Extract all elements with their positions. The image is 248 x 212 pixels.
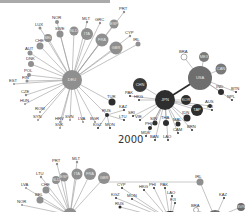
node-label-aus: AUS	[205, 99, 214, 104]
node-ltu	[40, 176, 42, 178]
node-label-phi: PHI	[145, 121, 152, 126]
node-label-svk: SVK	[55, 122, 64, 127]
node-lva	[25, 187, 27, 189]
node-label-deu: DEU	[68, 77, 77, 82]
edge	[215, 198, 224, 212]
node-label-mon: MON	[127, 193, 137, 198]
node-npl	[231, 99, 233, 101]
node-label-ban: BAN	[150, 134, 159, 139]
node-label-irl: IRL	[133, 37, 140, 42]
node-label-can: CAN	[217, 66, 226, 71]
node-ban	[154, 139, 156, 141]
node-label-nor: NOR	[52, 15, 61, 20]
node-irl	[136, 42, 141, 47]
node-label-mal: MAL	[173, 117, 182, 122]
node-label-dnk: DNK	[26, 56, 35, 61]
node-kgz	[115, 197, 117, 199]
edge	[122, 188, 170, 212]
node-label-tap: TAP	[193, 107, 201, 112]
labels-layer: NORLUXSWENLDMLTITAGRCFRAESPGBRPRTCYPIRLB…	[9, 6, 245, 210]
node-label-lva: LVA	[78, 116, 85, 121]
edge	[132, 199, 170, 212]
node-label-swe: SWE	[55, 26, 65, 31]
node-label-prt: PRT	[119, 6, 128, 11]
node-bel	[37, 197, 44, 204]
node-label-bel: BEL	[44, 35, 52, 40]
node-label-svn: SVN	[65, 114, 74, 119]
node-nor	[55, 20, 59, 24]
node-label-mlt: MLT	[82, 16, 91, 21]
node-label-pak: PAK	[125, 90, 133, 95]
node-label-kaz: KAZ	[219, 192, 228, 197]
bottom-hub-node	[207, 210, 223, 212]
node-label-rus: RUS	[102, 108, 111, 113]
node-label-ltu: LTU	[36, 171, 44, 176]
node-cze	[25, 94, 27, 96]
node-fji	[174, 202, 176, 204]
node-label-cam: CAM	[173, 127, 183, 132]
node-kaz	[223, 197, 225, 199]
node-sri	[132, 115, 134, 117]
node-label-rus: RUS	[115, 201, 124, 206]
node-mlt	[76, 161, 78, 163]
node-label-svn: SVN	[237, 204, 245, 209]
node-cam	[177, 132, 179, 134]
node-label-che: CHE	[41, 182, 50, 187]
node-prt	[123, 11, 125, 13]
node-label-cyp: CYP	[117, 182, 126, 187]
node-label-esp: ESP	[110, 21, 118, 26]
node-che	[37, 43, 44, 50]
node-label-chn: CHN	[136, 82, 145, 87]
node-label-hkg: HKG	[139, 184, 148, 189]
node-mon	[109, 127, 111, 129]
node-label-kgz: KGZ	[111, 192, 120, 197]
node-label-ita: ITA	[74, 171, 80, 176]
node-lva	[82, 121, 84, 123]
node-label-tur: TUR	[107, 94, 116, 99]
node-btn	[235, 91, 237, 93]
edge	[70, 178, 104, 212]
node-dnk	[28, 61, 34, 67]
node-label-fji: FJI	[170, 197, 176, 202]
node-label-fra: FRA	[98, 37, 106, 42]
node-label-ltu: LTU	[119, 114, 127, 119]
node-syn	[37, 119, 39, 121]
node-label-gbr: GBR	[100, 175, 109, 180]
node-label-nld: NLD	[70, 28, 78, 33]
node-fji	[211, 109, 213, 111]
node-rom	[39, 111, 41, 113]
node-label-cyp: CYP	[125, 30, 134, 35]
node-hkg	[138, 99, 140, 101]
node-label-npl: NPL	[227, 94, 236, 99]
year-label: 2000	[118, 134, 143, 145]
node-label-lao: LAO	[163, 134, 172, 139]
node-label-che: CHE	[35, 38, 44, 43]
node-vie	[139, 119, 141, 121]
node-label-usa: USA	[196, 75, 205, 80]
node-swe	[57, 31, 64, 38]
node-label-fra: FRA	[86, 171, 94, 176]
node-label-vie: VIE	[135, 114, 142, 119]
node-label-grc: GRC	[95, 17, 104, 22]
node-lao	[167, 139, 169, 141]
node-label-bel: BEL	[35, 192, 44, 197]
node-est	[13, 83, 15, 85]
node-label-ind: IND	[216, 84, 223, 89]
node-sin	[153, 121, 158, 126]
node-idn	[184, 115, 191, 122]
node-label-hrv: HRV	[55, 116, 64, 121]
node-label-fji: FJI	[207, 104, 213, 109]
node-rus	[105, 113, 109, 117]
node-prt	[56, 163, 58, 165]
node-label-kgz: KGZ	[93, 122, 102, 127]
node-brn	[191, 129, 193, 131]
node-kaz	[123, 109, 125, 111]
edge	[200, 182, 215, 212]
node-label-mon: MON	[105, 122, 115, 127]
bottom-hub-node	[161, 211, 179, 212]
node-mlt	[86, 21, 88, 23]
node-label-tha: THA	[161, 115, 170, 120]
node-label-ita: ITA	[84, 31, 90, 36]
node-hkg	[143, 189, 145, 191]
node-label-hun: HUN	[20, 98, 29, 103]
